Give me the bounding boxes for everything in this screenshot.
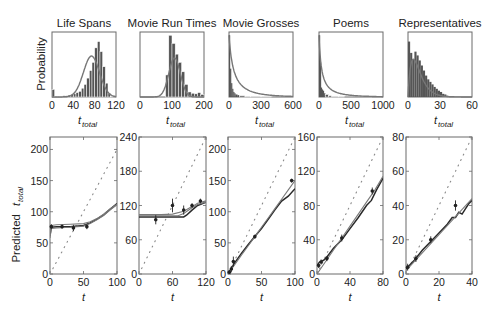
x-tick-label: 300: [252, 99, 270, 111]
x-tick-label: 40: [344, 276, 356, 288]
y-tick-label: 240: [119, 131, 137, 143]
histogram-bar: [250, 96, 261, 97]
prediction-panel-3: 050100050100150200t: [208, 137, 303, 303]
y-tick-label: 80: [392, 131, 404, 143]
histogram-bar: [421, 66, 423, 98]
x-tick-label: 120: [197, 276, 215, 288]
histogram-bar: [84, 84, 87, 97]
data-point: [370, 189, 374, 193]
histogram-bar: [329, 96, 332, 97]
histogram-bar: [79, 91, 82, 97]
data-point: [406, 265, 410, 269]
histogram-bar: [238, 95, 240, 97]
x-axis-label: t: [348, 291, 352, 303]
x-tick-label: 20: [433, 276, 445, 288]
data-point: [317, 264, 321, 268]
histogram-bar: [417, 55, 419, 97]
histogram-bar: [431, 84, 433, 97]
y-tick-label: 40: [392, 200, 404, 212]
histogram-panel-3: Movie Grosses0300600ttotal: [223, 17, 302, 129]
x-axis-label: t: [437, 291, 441, 303]
y-tick-label: 100: [30, 206, 48, 218]
prediction-panel-2: 060120060120180240t: [119, 131, 214, 303]
y-tick-label: 200: [30, 143, 48, 155]
panel-title: Life Spans: [57, 17, 112, 29]
histogram-bar: [76, 93, 79, 97]
data-point: [72, 226, 76, 230]
prediction-frame: [317, 137, 383, 274]
y-tick-label: 150: [208, 175, 226, 187]
y-tick-label: 50: [36, 237, 48, 249]
x-tick-label: 80: [377, 276, 389, 288]
x-tick-label: 100: [108, 276, 126, 288]
y-tick-label: 0: [398, 268, 404, 280]
histogram-bar: [332, 96, 338, 97]
histogram-panel-2: Movie Run Times0100200ttotal: [128, 17, 217, 129]
x-tick-label: 40: [466, 276, 478, 288]
histogram-bar: [233, 92, 234, 97]
prediction-panel-4: 0408004080120160t: [297, 131, 389, 303]
prediction-frame: [406, 137, 472, 274]
data-point: [50, 225, 54, 229]
x-axis-label-sub: total: [259, 120, 274, 129]
y-tick-label: 50: [214, 237, 226, 249]
histogram-bar: [235, 94, 237, 97]
histogram-bar: [95, 48, 98, 97]
histogram-bar: [414, 52, 416, 97]
y-tick-label: 80: [303, 200, 315, 212]
x-tick-label: 600: [284, 99, 302, 111]
x-tick-label: 100: [163, 99, 181, 111]
data-point: [319, 260, 323, 264]
y-tick-label: 150: [30, 175, 48, 187]
x-tick-label: 50: [256, 276, 268, 288]
x-tick-label: 0: [49, 99, 55, 111]
prediction-panel-5: 02040020406080t: [392, 131, 478, 303]
y-tick-label: 180: [119, 165, 137, 177]
y-tick-label: 200: [208, 143, 226, 155]
x-tick-label: 50: [78, 276, 90, 288]
panel-title: Representatives: [398, 17, 481, 29]
panel-title: Movie Run Times: [128, 17, 217, 29]
histogram-bar: [436, 89, 438, 97]
prediction-panel-1: 050100050100150200t: [30, 137, 125, 303]
data-point: [182, 208, 186, 212]
data-point: [171, 204, 175, 208]
histogram-bar: [245, 96, 250, 97]
data-point: [414, 257, 418, 261]
data-point: [85, 225, 89, 229]
x-tick-label: 30: [434, 99, 446, 111]
y-tick-label: 0: [309, 268, 315, 280]
histogram-bar: [172, 43, 175, 97]
histogram-panel-5: Representatives03060ttotal: [398, 17, 481, 129]
panel-title: Poems: [333, 17, 369, 29]
histogram-bar: [92, 62, 95, 97]
histogram-bar: [232, 89, 233, 97]
histogram-bar: [434, 87, 436, 97]
y-tick-label: 120: [119, 200, 137, 212]
x-axis-label-sub: total: [82, 120, 97, 129]
top-y-axis-label: Probability: [35, 37, 47, 91]
x-tick-label: 60: [167, 276, 179, 288]
y-tick-label: 60: [125, 234, 137, 246]
histogram-bar: [52, 89, 55, 97]
x-axis-label: t: [82, 291, 86, 303]
x-tick-label: 40: [67, 99, 79, 111]
x-tick-label: 1000: [371, 99, 395, 111]
prediction-frame: [228, 137, 295, 274]
histogram-bar: [325, 94, 328, 97]
x-tick-label: 0: [137, 99, 143, 111]
data-point: [199, 199, 203, 203]
figure: Probability Predicted t total Life Spans…: [0, 0, 490, 317]
panel-title: Movie Grosses: [223, 17, 300, 29]
data-point: [60, 225, 64, 229]
x-tick-label: 80: [89, 99, 101, 111]
data-point: [228, 270, 232, 274]
y-tick-label: 120: [297, 165, 315, 177]
chart-canvas: Probability Predicted t total Life Spans…: [0, 0, 490, 317]
y-tick-label: 160: [297, 131, 315, 143]
x-tick-label: 0: [226, 99, 232, 111]
x-axis-label-sub: total: [170, 120, 185, 129]
x-axis-label: t: [260, 291, 264, 303]
histogram-bar: [323, 91, 324, 97]
histogram-bar: [412, 59, 414, 97]
